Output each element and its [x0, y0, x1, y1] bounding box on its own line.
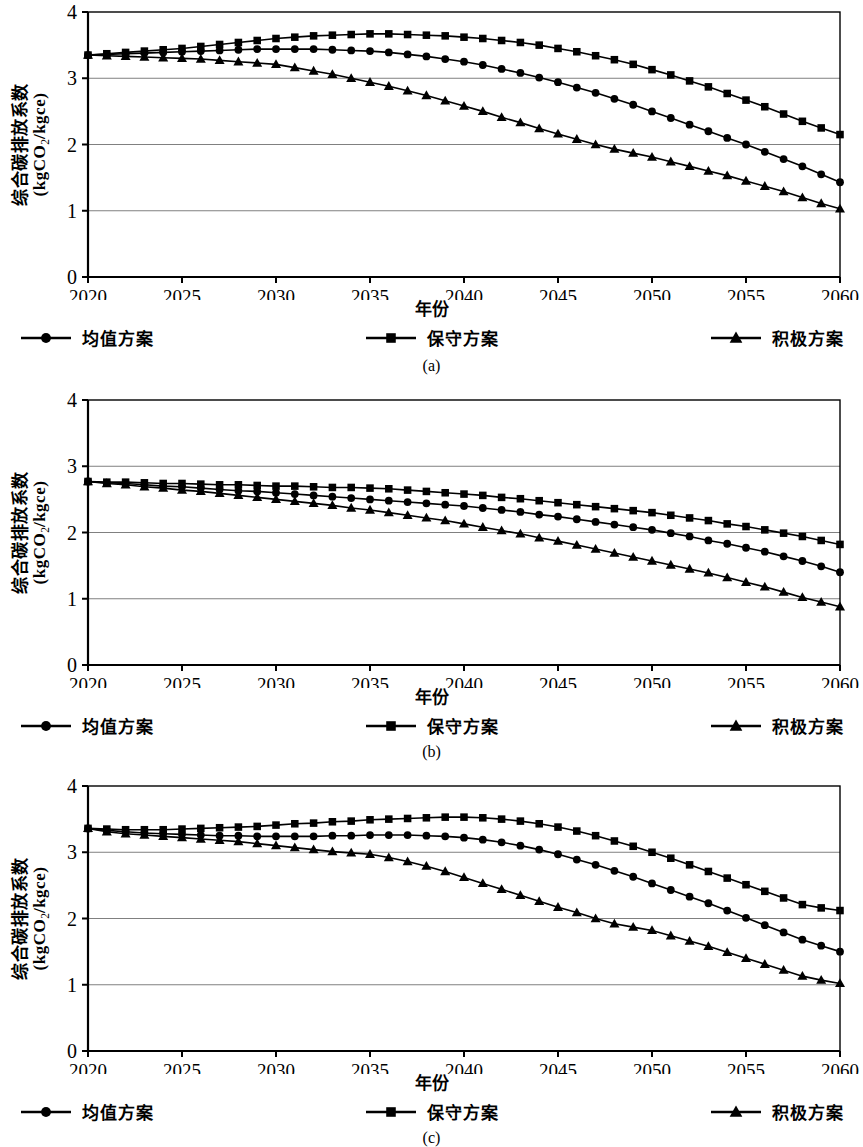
legend-item-aggressive: 积极方案: [709, 1099, 844, 1124]
svg-text:2: 2: [67, 522, 77, 544]
legend-item-conservative: 保守方案: [364, 713, 499, 738]
caption-b: (b): [0, 743, 863, 761]
x-axis-title-b: 年份: [0, 683, 863, 708]
legend-item-aggressive: 积极方案: [709, 713, 844, 738]
legend-item-conservative: 保守方案: [364, 325, 499, 350]
chart-panel-a: (kgCO2/kgce) 综合碳排放系数 0123420202025203020…: [0, 0, 863, 380]
square-marker-icon: [364, 328, 418, 348]
legend-label: 保守方案: [427, 325, 499, 350]
svg-text:4: 4: [67, 389, 77, 411]
legend-item-mean: 均值方案: [19, 325, 154, 350]
svg-text:4: 4: [67, 775, 77, 797]
plot-area-c: 0123420202025203020352040204520502055206…: [0, 774, 863, 1074]
svg-text:0: 0: [67, 654, 77, 676]
svg-text:4: 4: [67, 1, 77, 23]
chart-panel-b: (kgCO2/kgce) 综合碳排放系数 0123420202025203020…: [0, 380, 863, 760]
legend-label: 积极方案: [772, 1099, 844, 1124]
x-axis-title-c: 年份: [0, 1069, 863, 1094]
svg-text:2: 2: [67, 908, 77, 930]
legend-b: 均值方案保守方案积极方案: [0, 713, 863, 738]
square-marker-icon: [364, 716, 418, 736]
svg-text:2: 2: [67, 134, 77, 156]
plot-area-a: 0123420202025203020352040204520502055206…: [0, 0, 863, 300]
triangle-marker-icon: [709, 716, 763, 736]
svg-text:3: 3: [67, 67, 77, 89]
legend-label: 保守方案: [427, 1099, 499, 1124]
legend-label: 均值方案: [82, 713, 154, 738]
circle-marker-icon: [19, 1102, 73, 1122]
legend-label: 保守方案: [427, 713, 499, 738]
caption-a: (a): [0, 357, 863, 375]
legend-item-mean: 均值方案: [19, 713, 154, 738]
legend-a: 均值方案保守方案积极方案: [0, 325, 863, 350]
svg-text:1: 1: [67, 588, 77, 610]
svg-text:3: 3: [67, 841, 77, 863]
svg-text:1: 1: [67, 200, 77, 222]
legend-label: 积极方案: [772, 713, 844, 738]
circle-marker-icon: [19, 716, 73, 736]
legend-item-aggressive: 积极方案: [709, 325, 844, 350]
chart-panel-c: (kgCO2/kgce) 综合碳排放系数 0123420202025203020…: [0, 760, 863, 1140]
plot-area-b: 0123420202025203020352040204520502055206…: [0, 388, 863, 688]
legend-c: 均值方案保守方案积极方案: [0, 1099, 863, 1124]
svg-text:0: 0: [67, 1040, 77, 1062]
legend-label: 均值方案: [82, 325, 154, 350]
x-axis-title-a: 年份: [0, 295, 863, 320]
legend-item-conservative: 保守方案: [364, 1099, 499, 1124]
legend-label: 均值方案: [82, 1099, 154, 1124]
svg-text:1: 1: [67, 974, 77, 996]
square-marker-icon: [364, 1102, 418, 1122]
caption-c: (c): [0, 1129, 863, 1147]
svg-text:3: 3: [67, 455, 77, 477]
triangle-marker-icon: [709, 1102, 763, 1122]
circle-marker-icon: [19, 328, 73, 348]
legend-label: 积极方案: [772, 325, 844, 350]
legend-item-mean: 均值方案: [19, 1099, 154, 1124]
triangle-marker-icon: [709, 328, 763, 348]
svg-text:0: 0: [67, 266, 77, 288]
